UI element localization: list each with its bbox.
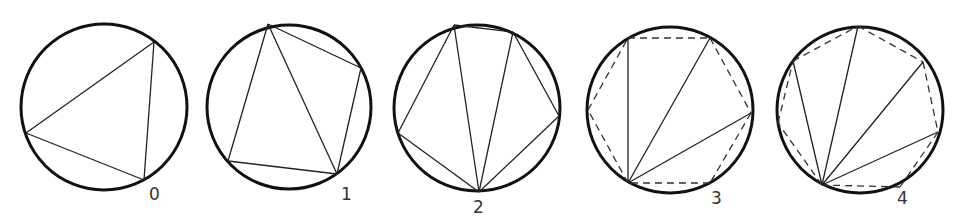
figure-label: 0 <box>149 184 160 204</box>
triangle-edge <box>454 25 479 192</box>
triangle-edge <box>26 42 154 133</box>
triangle-edge <box>268 24 337 174</box>
triangle-edge <box>822 132 938 185</box>
polygon-edge-dashed <box>923 62 938 132</box>
figure-label: 2 <box>473 197 484 217</box>
triangle-edge <box>26 133 144 180</box>
figure-label: 3 <box>711 188 722 208</box>
triangle-edge <box>228 161 337 174</box>
figure-0-triangle: 0 <box>21 24 187 204</box>
triangle-edge <box>822 62 923 185</box>
figure-label: 1 <box>341 184 352 204</box>
figure-3-hexagon: 3 <box>587 27 753 208</box>
circumscribed-circle <box>21 24 187 190</box>
triangle-edge <box>822 26 858 185</box>
figure-label: 4 <box>897 188 908 208</box>
figure-1-quadrilateral: 1 <box>207 24 371 204</box>
figure-2-pentagon: 2 <box>394 25 560 217</box>
circumscribed-circle <box>207 25 371 189</box>
diagram-canvas: 0 1 2 3 4 <box>0 0 957 217</box>
circumscribed-circle <box>394 25 560 191</box>
triangle-edge <box>144 42 154 180</box>
triangle-edge <box>479 32 513 192</box>
triangle-edge <box>628 38 710 183</box>
triangle-edge <box>628 113 751 183</box>
polygon-edge-dashed <box>793 26 858 61</box>
figure-4-heptagon: 4 <box>777 26 943 208</box>
triangle-edge <box>337 68 361 174</box>
